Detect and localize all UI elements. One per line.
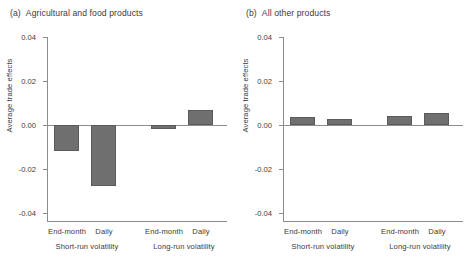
panel-b-group-label-long-run: Long-run volatility: [389, 242, 450, 251]
panel-a-ytick-0: 0.04: [43, 37, 48, 38]
panel-b-ytick-label-1: 0.02: [257, 77, 272, 86]
panel-a-ytick-1: 0.02: [43, 81, 48, 82]
panel-b: (b)All other products Average trade effe…: [236, 0, 472, 260]
figure-two-panel-bar-charts: (a)Agricultural and food products Averag…: [0, 0, 472, 260]
panel-b-bar-long-run-end-month: [387, 116, 412, 125]
panel-a-ytick-label-0: 0.04: [21, 33, 36, 42]
panel-a-xtick-label-3: Daily: [192, 227, 209, 236]
panel-b-ytick-label-4: -0.04: [255, 209, 272, 218]
panel-a-plot-area: 0.04 0.02 0.00 -0.02 -0.04 End-month Dai…: [47, 37, 227, 222]
panel-a-ytick-label-3: -0.02: [19, 165, 36, 174]
panel-a: (a)Agricultural and food products Averag…: [0, 0, 236, 260]
panel-b-ytick-label-3: -0.02: [255, 165, 272, 174]
panel-b-ytick-0: 0.04: [279, 37, 284, 38]
panel-b-y-axis-spine: [283, 37, 284, 222]
panel-a-bar-long-run-end-month: [151, 125, 176, 129]
panel-b-zero-line: [283, 125, 463, 126]
panel-a-group-label-short-run: Short-run volatility: [56, 242, 119, 251]
panel-a-ytick-4: -0.04: [43, 213, 48, 214]
panel-b-title: (b)All other products: [246, 8, 331, 18]
panel-a-group-label-long-run: Long-run volatility: [153, 242, 214, 251]
panel-b-bar-short-run-end-month: [290, 117, 315, 125]
panel-b-ytick-4: -0.04: [279, 213, 284, 214]
panel-a-y-axis-spine: [47, 37, 48, 222]
panel-b-ytick-label-2: 0.00: [257, 121, 272, 130]
panel-a-ytick-3: -0.02: [43, 169, 48, 170]
panel-b-group-label-short-run: Short-run volatility: [292, 242, 355, 251]
panel-b-ytick-3: -0.02: [279, 169, 284, 170]
panel-b-plot-area: 0.04 0.02 0.00 -0.02 -0.04 End-month Dai…: [283, 37, 463, 222]
panel-a-xtick-label-0: End-month: [48, 227, 86, 236]
panel-a-y-axis-label-text: Average trade effects: [5, 58, 14, 132]
panel-a-ytick-label-1: 0.02: [21, 77, 36, 86]
panel-b-bar-short-run-daily: [327, 119, 352, 125]
panel-a-bar-long-run-daily: [188, 110, 213, 125]
panel-b-y-axis-label: Average trade effects: [237, 0, 253, 190]
panel-a-bar-short-run-daily: [91, 125, 116, 186]
panel-b-title-text: All other products: [262, 8, 331, 18]
panel-a-xtick-label-1: Daily: [95, 227, 112, 236]
panel-b-x-axis-spine: [283, 221, 463, 222]
panel-a-title: (a)Agricultural and food products: [10, 8, 143, 18]
panel-b-xtick-label-1: Daily: [331, 227, 348, 236]
panel-b-bar-long-run-daily: [424, 113, 449, 125]
panel-a-xtick-label-2: End-month: [145, 227, 183, 236]
panel-b-xtick-label-0: End-month: [284, 227, 322, 236]
panel-b-ytick-1: 0.02: [279, 81, 284, 82]
panel-a-title-text: Agricultural and food products: [26, 8, 143, 18]
panel-b-y-axis-label-text: Average trade effects: [241, 58, 250, 132]
panel-a-bar-short-run-end-month: [54, 125, 79, 151]
panel-a-x-axis-spine: [47, 221, 227, 222]
panel-a-ytick-label-2: 0.00: [21, 121, 36, 130]
panel-a-ytick-label-4: -0.04: [19, 209, 36, 218]
panel-b-ytick-label-0: 0.04: [257, 33, 272, 42]
panel-b-xtick-label-3: Daily: [428, 227, 445, 236]
panel-b-xtick-label-2: End-month: [381, 227, 419, 236]
panel-a-y-axis-label: Average trade effects: [1, 0, 17, 190]
